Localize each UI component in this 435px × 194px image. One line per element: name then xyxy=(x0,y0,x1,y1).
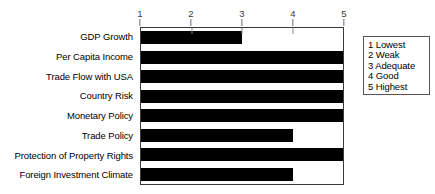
bar-row xyxy=(141,67,343,87)
x-axis: 12345 xyxy=(140,8,344,27)
category-label: Country Risk xyxy=(0,86,137,106)
bar xyxy=(141,70,343,83)
category-label: Monetary Policy xyxy=(0,106,137,126)
x-axis-tick: 5 xyxy=(341,8,346,26)
plot-top-tick xyxy=(191,28,192,34)
bar xyxy=(141,109,343,122)
bar xyxy=(141,168,293,181)
bar-row xyxy=(141,165,343,185)
x-axis-tick: 3 xyxy=(239,8,244,26)
category-label: Trade Policy xyxy=(0,126,137,146)
category-label: Protection of Property Rights xyxy=(0,146,137,166)
plot-top-tick xyxy=(292,28,293,34)
category-label: Foreign Investment Climate xyxy=(0,165,137,185)
category-label: Per Capita Income xyxy=(0,47,137,67)
x-axis-tick-label: 1 xyxy=(137,8,142,19)
plot-top-tick xyxy=(242,28,243,34)
bar-chart-figure: GDP GrowthPer Capita IncomeTrade Flow wi… xyxy=(0,0,435,194)
bar-row xyxy=(141,145,343,165)
x-axis-tick-label: 4 xyxy=(290,8,295,19)
legend-entry: 5 Highest xyxy=(368,82,429,92)
x-axis-tick: 4 xyxy=(290,8,295,26)
x-axis-tick-mark xyxy=(343,19,344,26)
x-axis-tick-mark xyxy=(292,19,293,26)
bar-row xyxy=(141,48,343,68)
bar-row xyxy=(141,126,343,146)
category-label: Trade Flow with USA xyxy=(0,67,137,87)
bars-layer xyxy=(141,28,343,184)
bar xyxy=(141,51,343,64)
x-axis-tick-mark xyxy=(139,19,140,26)
bar xyxy=(141,148,343,161)
x-axis-tick-mark xyxy=(241,19,242,26)
x-axis-tick: 2 xyxy=(188,8,193,26)
x-axis-tick-label: 3 xyxy=(239,8,244,19)
bar xyxy=(141,90,343,103)
bar xyxy=(141,129,293,142)
chart-legend: 1 Lowest2 Weak3 Adequate4 Good5 Highest xyxy=(363,36,430,95)
x-axis-tick-mark xyxy=(190,19,191,26)
x-axis-tick: 1 xyxy=(137,8,142,26)
category-label: GDP Growth xyxy=(0,27,137,47)
plot-area xyxy=(140,27,344,185)
bar-row xyxy=(141,87,343,107)
bar-row xyxy=(141,106,343,126)
category-axis: GDP GrowthPer Capita IncomeTrade Flow wi… xyxy=(0,27,137,185)
x-axis-tick-label: 5 xyxy=(341,8,346,19)
x-axis-tick-label: 2 xyxy=(188,8,193,19)
